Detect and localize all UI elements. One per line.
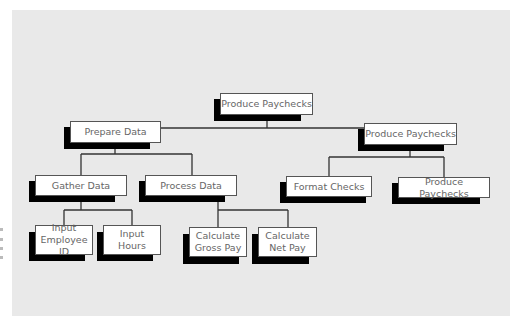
node-label: Calculate Net Pay	[258, 227, 317, 257]
node-label: Gather Data	[35, 175, 127, 196]
node-label: Format Checks	[286, 176, 372, 197]
node-label: Produce Paychecks	[364, 123, 457, 145]
margin-mark	[0, 247, 3, 250]
margin-mark	[0, 238, 3, 241]
node-label: Input Hours	[103, 225, 161, 255]
node-label: Prepare Data	[70, 121, 161, 143]
node-label: Process Data	[145, 175, 237, 196]
node-label: Input Employee ID	[35, 225, 93, 255]
node-label: Produce Paychecks	[220, 93, 313, 115]
node-label: Produce Paychecks	[398, 177, 490, 198]
connector-lines	[0, 0, 516, 324]
node-label: Calculate Gross Pay	[189, 227, 247, 257]
margin-mark	[0, 228, 3, 231]
margin-mark	[0, 256, 3, 259]
